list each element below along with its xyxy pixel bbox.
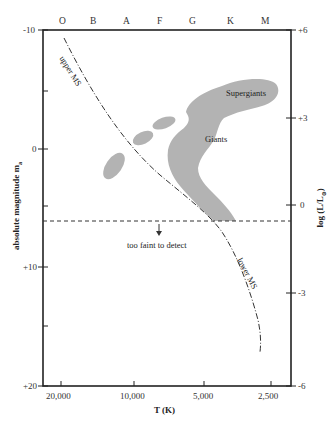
region-blob-3 [151,114,177,133]
detection-limit-label: too faint to detect [127,240,187,250]
region-blob-2 [130,128,155,148]
left-tick-label: 0 [32,144,37,154]
spectral-class-m: M [261,16,269,26]
bottom-tick-label: 10,000 [120,391,145,401]
right-tick-label: 0 [300,200,305,210]
bottom-tick-label: 5,000 [193,391,213,401]
bottom-tick-label: 20,000 [46,391,71,401]
right-tick-label: -3 [298,288,306,298]
spectral-class-g: G [189,16,196,26]
bottom-tick-label: 2,500 [258,391,278,401]
spectral-class-k: K [227,16,234,26]
right-tick-label: -6 [298,381,306,391]
spectral-class-o: O [59,16,66,26]
left-tick-label: -10 [23,25,35,35]
spectral-class-a: A [123,16,130,26]
left-tick-label: +10 [23,262,37,272]
giants-label: Giants [205,134,227,144]
left-axis-title: absolute magnitude ma [11,151,23,261]
left-tick-label: +20 [23,381,37,391]
right-tick-label: +3 [298,113,308,123]
bottom-axis-title: T (K) [154,405,175,415]
down-arrow-icon [156,224,162,236]
right-tick-label: +6 [298,25,308,35]
region-blob-1 [99,149,129,183]
supergiants-label: Supergiants [226,88,266,98]
hr-diagram-plot [0,0,336,422]
giants-supergiants-region [168,79,279,221]
spectral-class-b: B [90,16,96,26]
right-axis-title: log (L/L⊙) [315,168,327,248]
spectral-class-f: F [157,16,162,26]
